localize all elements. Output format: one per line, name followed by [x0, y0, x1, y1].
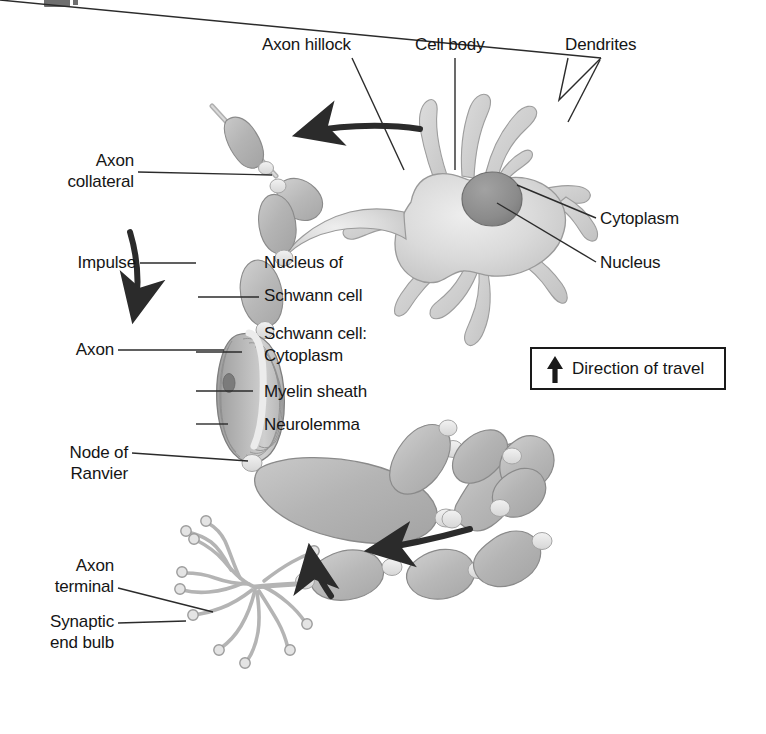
synaptic-end-bulb: [240, 658, 250, 668]
label-nucleus-of-schwann-line1: Nucleus of: [264, 252, 343, 273]
label-node-of-ranvier-line1: Node of: [0, 442, 128, 463]
synaptic-end-bulb: [285, 645, 295, 655]
node-of-ranvier: [296, 573, 315, 589]
diagram-canvas: Axon hillock Cell body Dendrites Axon co…: [0, 0, 766, 734]
synaptic-end-bulb: [214, 645, 224, 655]
synaptic-end-bulb: [302, 619, 312, 629]
node-of-ranvier: [439, 420, 457, 436]
direction-of-travel-legend: Direction of travel: [530, 347, 726, 390]
myelin-segment: [390, 425, 451, 495]
label-axon-terminal-line2: terminal: [0, 576, 114, 597]
cell-body-soma: [285, 94, 598, 345]
impulse-arrow-left: [130, 232, 137, 316]
label-synaptic-end-bulb-line1: Synaptic: [0, 611, 114, 632]
label-myelin-sheath: Myelin sheath: [264, 381, 367, 402]
leader-synaptic-end-bulb: [118, 621, 186, 623]
label-axon-collateral-line2: collateral: [0, 171, 134, 192]
node-of-ranvier: [532, 533, 552, 550]
label-axon-collateral-line1: Axon: [0, 150, 134, 171]
label-axon-hillock: Axon hillock: [262, 34, 351, 55]
synaptic-end-bulb: [201, 516, 211, 526]
leader-lines: [0, 0, 601, 623]
leader-axon-collateral: [138, 172, 272, 175]
synaptic-end-bulb: [188, 610, 198, 620]
node-of-ranvier: [382, 559, 402, 576]
synaptic-end-bulb: [177, 567, 187, 577]
label-impulse: Impulse: [0, 252, 136, 273]
myelin-segment: [406, 549, 474, 599]
node-of-ranvier: [490, 500, 510, 517]
label-node-of-ranvier-line2: Ranvier: [0, 463, 128, 484]
axon-collateral: [212, 106, 276, 176]
label-axon-terminal-line1: Axon: [0, 555, 114, 576]
label-soma-nucleus: Nucleus: [600, 252, 660, 273]
up-arrow-icon: [542, 354, 568, 384]
soma-nucleus: [462, 172, 522, 226]
leader-node-of-ranvier: [132, 453, 248, 461]
label-schwann-cytoplasm: Cytoplasm: [264, 345, 343, 366]
leader-dendrites: [559, 58, 601, 100]
myelin-segment: [224, 117, 263, 168]
axon-terminal-arbor: [182, 523, 312, 661]
label-synaptic-end-bulb-line2: end bulb: [0, 632, 114, 653]
schwann-cell-nucleus-inset: [223, 374, 235, 393]
label-schwann-cell-heading: Schwann cell:: [264, 323, 367, 344]
synaptic-end-bulb: [175, 584, 185, 594]
synaptic-end-bulb: [189, 534, 199, 544]
node-of-ranvier: [442, 510, 462, 528]
label-dendrites: Dendrites: [565, 34, 636, 55]
node-of-ranvier: [270, 179, 286, 193]
label-nucleus-of-schwann-line2: Schwann cell: [264, 285, 362, 306]
dendrite: [461, 94, 490, 178]
legend-label: Direction of travel: [572, 359, 704, 379]
synaptic-end-bulb: [181, 526, 191, 536]
label-axon: Axon: [0, 339, 114, 360]
label-soma-cytoplasm: Cytoplasm: [600, 208, 679, 229]
label-neurolemma: Neurolemma: [264, 414, 360, 435]
node-of-ranvier: [259, 162, 274, 175]
leader-axon-hillock: [352, 58, 404, 170]
impulse-arrow-top: [300, 126, 420, 134]
label-cell-body: Cell body: [415, 34, 485, 55]
myelin-segment: [473, 531, 540, 587]
leader-dendrites-2: [568, 60, 600, 122]
